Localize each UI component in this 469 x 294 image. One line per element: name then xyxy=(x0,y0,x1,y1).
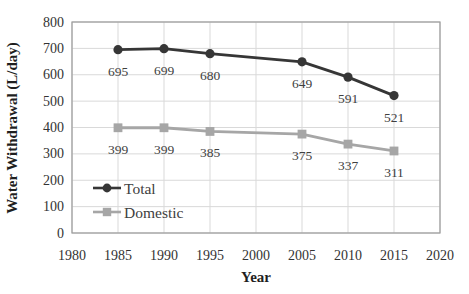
x-tick-label: 1995 xyxy=(196,248,224,263)
y-tick-label: 400 xyxy=(43,120,64,135)
legend-marker-square xyxy=(103,208,111,216)
x-tick-label: 2020 xyxy=(426,248,454,263)
y-tick-label: 100 xyxy=(43,199,64,214)
marker-circle-total xyxy=(297,57,306,66)
x-tick-label: 2010 xyxy=(334,248,362,263)
legend-marker-circle xyxy=(103,184,112,193)
chart-canvas: 6956996806495915213993993853753373110100… xyxy=(0,0,469,294)
data-label-total: 680 xyxy=(200,68,221,83)
x-tick-label: 2000 xyxy=(242,248,270,263)
marker-square-domestic xyxy=(114,123,123,132)
marker-circle-total xyxy=(389,91,398,100)
data-label-total: 649 xyxy=(292,76,313,91)
x-tick-label: 2015 xyxy=(380,248,408,263)
marker-square-domestic xyxy=(160,123,169,132)
y-tick-label: 600 xyxy=(43,67,64,82)
marker-circle-total xyxy=(113,45,122,54)
x-axis-title: Year xyxy=(241,269,271,285)
marker-circle-total xyxy=(159,44,168,53)
marker-square-domestic xyxy=(344,140,353,149)
data-label-total: 699 xyxy=(154,63,175,78)
data-label-total: 695 xyxy=(108,64,129,79)
y-tick-label: 800 xyxy=(43,15,64,30)
legend-label-domestic: Domestic xyxy=(124,204,184,221)
plot-area: 6956996806495915213993993853753373110100… xyxy=(0,0,469,294)
marker-circle-total xyxy=(343,73,352,82)
marker-square-domestic xyxy=(390,147,399,156)
marker-circle-total xyxy=(205,49,214,58)
water-withdrawal-chart: 6956996806495915213993993853753373110100… xyxy=(0,0,469,294)
data-label-domestic: 375 xyxy=(292,148,313,163)
data-label-domestic: 385 xyxy=(200,145,221,160)
data-label-total: 591 xyxy=(338,91,358,106)
y-tick-label: 300 xyxy=(43,146,64,161)
data-label-domestic: 399 xyxy=(108,142,129,157)
x-tick-label: 1990 xyxy=(150,248,178,263)
data-label-domestic: 311 xyxy=(384,165,404,180)
data-label-total: 521 xyxy=(384,110,404,125)
y-tick-label: 200 xyxy=(43,173,64,188)
marker-square-domestic xyxy=(298,130,307,139)
legend-label-total: Total xyxy=(124,180,156,197)
y-tick-label: 700 xyxy=(43,41,64,56)
x-tick-label: 1985 xyxy=(104,248,132,263)
data-label-domestic: 399 xyxy=(154,142,175,157)
y-tick-label: 500 xyxy=(43,94,64,109)
y-axis-title: Water Withdrawal (L/day) xyxy=(4,42,21,214)
x-tick-label: 2005 xyxy=(288,248,316,263)
x-tick-label: 1980 xyxy=(58,248,86,263)
data-label-domestic: 337 xyxy=(338,158,359,173)
y-tick-label: 0 xyxy=(57,226,64,241)
marker-square-domestic xyxy=(206,127,215,136)
